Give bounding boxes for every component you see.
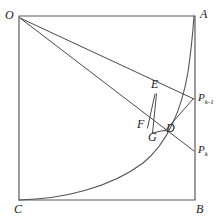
ray-o-to-p-prev (20, 18, 194, 99)
label-p-prev: Pk-1 (198, 92, 214, 106)
label-p-prev-sub: k-1 (205, 98, 214, 106)
segment-e-to-g (153, 94, 157, 133)
geometry-figure: O A B C E F G D Pk-1 Pk (0, 0, 219, 223)
label-p-curr-base: P (198, 143, 205, 155)
label-F: F (137, 118, 144, 130)
exponential-curve (19, 16, 194, 200)
label-E: E (151, 78, 158, 90)
label-A: A (200, 8, 207, 20)
square-outline (19, 16, 195, 200)
label-p-prev-base: P (198, 91, 205, 103)
label-G: G (148, 131, 157, 143)
label-O: O (5, 9, 14, 21)
label-D: D (166, 122, 175, 134)
figure-canvas (0, 0, 219, 223)
label-p-curr: Pk (198, 144, 208, 158)
label-C: C (14, 203, 22, 215)
label-B: B (196, 203, 203, 215)
label-p-curr-sub: k (205, 150, 208, 158)
